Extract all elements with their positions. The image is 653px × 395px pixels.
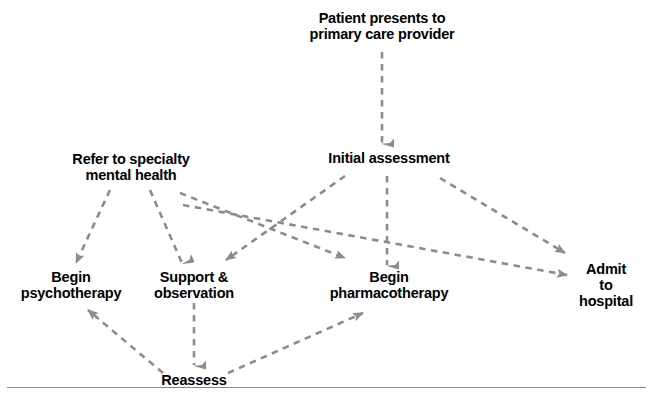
flowchart-canvas: Patient presents to primary care provide… (0, 0, 653, 395)
edge-refer-to-psychotherapy (76, 190, 110, 263)
edge-reassess-to-psychotherapy (88, 310, 163, 373)
node-patient-presents: Patient presents to primary care provide… (310, 10, 455, 42)
edge-refer-to-support (150, 190, 182, 263)
node-begin-pharmacotherapy: Begin pharmacotherapy (330, 269, 449, 301)
edge-assessment-to-support (226, 176, 345, 260)
edge-reassess-to-pharmacotherapy (228, 313, 363, 373)
bottom-divider (7, 387, 646, 388)
node-admit-to-hospital: Admit to hospital (579, 261, 633, 310)
node-support-observation: Support & observation (154, 269, 234, 301)
flowchart-edges (0, 0, 653, 395)
node-initial-assessment: Initial assessment (328, 150, 449, 166)
edge-assessment-to-admit (440, 178, 565, 253)
node-refer-specialty-mental-health: Refer to specialty mental health (72, 151, 189, 183)
edge-refer-to-pharmacotherapy (180, 193, 345, 258)
node-reassess: Reassess (161, 372, 226, 388)
node-begin-psychotherapy: Begin psychotherapy (21, 269, 122, 301)
